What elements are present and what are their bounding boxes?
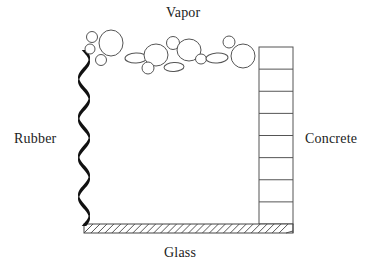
glass-outline [84, 224, 293, 233]
vapor-bubble [142, 62, 154, 74]
vapor-bubble [85, 44, 95, 54]
label-vapor: Vapor [166, 6, 200, 20]
glass-base [84, 224, 293, 233]
concrete-column [259, 47, 293, 224]
vapor-bubble [231, 44, 255, 68]
label-rubber: Rubber [14, 132, 56, 146]
vapor-bubble [99, 30, 123, 56]
vapor-bubble [164, 62, 184, 72]
vapor-bubble [96, 55, 107, 66]
vapor-bubble [196, 54, 207, 64]
label-concrete: Concrete [305, 132, 357, 146]
label-glass: Glass [164, 246, 196, 260]
vapor-bubble [87, 32, 98, 43]
diagram-canvas: Vapor Rubber Concrete Glass [0, 0, 383, 271]
rubber-wave [78, 50, 90, 226]
vapor-bubble [206, 52, 229, 64]
vapor-bubble-group [85, 30, 255, 74]
vapor-bubble [223, 36, 235, 48]
rubber-seal [78, 50, 90, 226]
